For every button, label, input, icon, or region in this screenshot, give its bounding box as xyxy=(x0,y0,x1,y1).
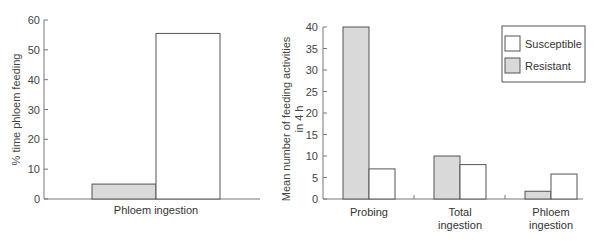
y-tick-label: 30 xyxy=(306,64,318,76)
y-axis-title: % time phloem feeding xyxy=(10,54,22,166)
y-tick-label: 25 xyxy=(306,86,318,98)
y-tick-label: 30 xyxy=(28,104,40,116)
y-tick-label: 40 xyxy=(28,74,40,86)
y-tick-label: 5 xyxy=(312,172,318,184)
y-tick-label: 0 xyxy=(312,193,318,205)
y-tick-label: 20 xyxy=(306,107,318,119)
legend-swatch-susceptible xyxy=(505,36,520,51)
bar-resistant xyxy=(92,184,156,199)
chart-canvas: 0102030405060% time phloem feedingPhloem… xyxy=(0,0,597,243)
legend-box xyxy=(502,26,585,82)
y-axis-title: Mean number of feeding activitiesin 4 h xyxy=(280,36,305,201)
y-tick-label: 60 xyxy=(28,14,40,26)
x-category-label: Probing xyxy=(350,206,388,218)
bar-susceptible-total-ingestion xyxy=(460,165,486,199)
bar-susceptible-probing xyxy=(369,169,395,199)
bar-susceptible xyxy=(156,33,220,199)
y-tick-label: 50 xyxy=(28,44,40,56)
legend-label-resistant: Resistant xyxy=(525,60,571,72)
x-category-label: ingestion xyxy=(438,219,482,231)
y-tick-label: 20 xyxy=(28,133,40,145)
legend-swatch-resistant xyxy=(505,58,520,73)
bar-resistant-phloem-ingestion xyxy=(525,191,551,199)
bar-resistant-probing xyxy=(343,27,369,199)
x-category-label: Phloem xyxy=(532,206,569,218)
y-axis-title-line: in 4 h xyxy=(293,106,305,133)
y-tick-label: 10 xyxy=(28,163,40,175)
x-category-label: Total xyxy=(448,206,471,218)
bar-susceptible-phloem-ingestion xyxy=(551,174,577,199)
y-tick-label: 40 xyxy=(306,21,318,33)
y-tick-label: 35 xyxy=(306,43,318,55)
bar-resistant-total-ingestion xyxy=(434,156,460,199)
left-chart: 0102030405060% time phloem feedingPhloem… xyxy=(10,14,260,216)
y-tick-label: 0 xyxy=(34,193,40,205)
x-category-label: ingestion xyxy=(529,219,573,231)
legend: SusceptibleResistant xyxy=(502,26,585,82)
y-tick-label: 15 xyxy=(306,129,318,141)
y-axis-title-line: Mean number of feeding activities xyxy=(280,36,292,201)
x-category-label: Phloem ingestion xyxy=(114,204,198,216)
legend-label-susceptible: Susceptible xyxy=(525,38,582,50)
y-tick-label: 10 xyxy=(306,150,318,162)
